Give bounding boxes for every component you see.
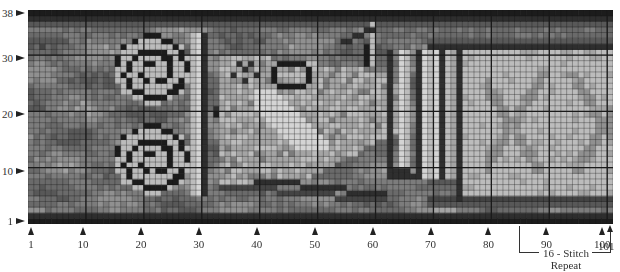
column-label-text: 40 (242, 238, 272, 250)
column-label-text: 60 (358, 238, 388, 250)
arrow-up-101-icon (607, 225, 613, 232)
arrow-right-icon (16, 111, 25, 117)
row-label-text: 1 (8, 215, 14, 227)
column-label-text: 70 (416, 238, 446, 250)
arrow-up-icon (599, 227, 605, 235)
arrow-right-icon (16, 55, 25, 61)
arrow-right-icon (16, 218, 25, 224)
row-label-38: 38 (0, 7, 26, 19)
column-label-10: 10 (68, 227, 98, 250)
arrow-up-icon (80, 227, 86, 235)
arrow-up-icon (254, 227, 260, 235)
row-label-20: 20 (0, 108, 26, 120)
column-label-30: 30 (184, 227, 214, 250)
row-label-text: 20 (2, 108, 13, 120)
column-label-40: 40 (242, 227, 272, 250)
arrow-up-icon (196, 227, 202, 235)
arrow-up-icon (543, 227, 549, 235)
column-label-80: 80 (473, 227, 503, 250)
row-label-text: 30 (2, 52, 13, 64)
column-label-101: 101 (598, 240, 615, 252)
row-label-text: 38 (2, 7, 13, 19)
bracket-left-horizontal (519, 252, 539, 253)
column-label-text: 10 (68, 238, 98, 250)
repeat-label-line1: 16 - Stitch (540, 247, 592, 259)
arrow-right-icon (16, 10, 25, 16)
column-label-text: 30 (184, 238, 214, 250)
column-label-50: 50 (300, 227, 330, 250)
arrow-up-icon (28, 227, 34, 235)
repeat-label: 16 - Stitch Repeat (540, 247, 592, 271)
repeat-label-line2: Repeat (540, 259, 592, 271)
row-label-text: 10 (2, 165, 13, 177)
column-label-text: 50 (300, 238, 330, 250)
column-label-text: 1 (16, 238, 46, 250)
stitch-chart-grid (28, 10, 613, 224)
arrow-up-icon (370, 227, 376, 235)
stitch-chart-canvas (28, 10, 613, 224)
column-label-1: 1 (16, 227, 46, 250)
row-label-10: 10 (0, 165, 26, 177)
column-label-text: 20 (126, 238, 156, 250)
column-label-text: 80 (473, 238, 503, 250)
column-label-70: 70 (416, 227, 446, 250)
column-label-20: 20 (126, 227, 156, 250)
row-label-1: 1 (0, 215, 26, 227)
arrow-up-icon (312, 227, 318, 235)
arrow-right-icon (16, 168, 25, 174)
arrow-up-icon (138, 227, 144, 235)
arrow-up-icon (485, 227, 491, 235)
bracket-right-horizontal (592, 252, 611, 253)
bracket-left-vertical (519, 226, 520, 253)
arrow-up-icon (428, 227, 434, 235)
row-label-30: 30 (0, 52, 26, 64)
column-label-60: 60 (358, 227, 388, 250)
